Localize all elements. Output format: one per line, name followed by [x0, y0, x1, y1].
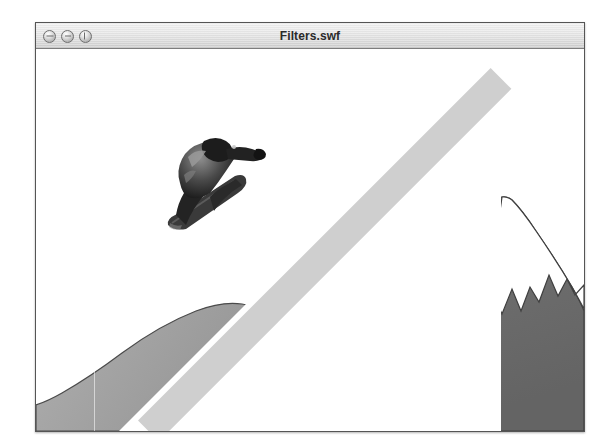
foreground-hill — [36, 289, 445, 431]
screenshot-root: Filters.swf — [0, 0, 616, 448]
foreground-hill-group — [36, 289, 445, 431]
flash-stage[interactable] — [36, 49, 584, 431]
glove — [254, 149, 267, 160]
window-title: Filters.swf — [36, 23, 584, 49]
scene-graphic — [36, 49, 584, 431]
application-window: Filters.swf — [35, 22, 585, 432]
window-titlebar[interactable]: Filters.swf — [36, 23, 584, 49]
snowboarder — [168, 138, 266, 230]
